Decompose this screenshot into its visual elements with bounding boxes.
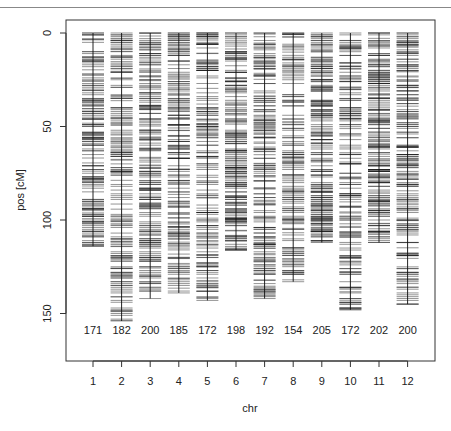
marker-count: 182 — [112, 324, 130, 336]
x-tick-label: 10 — [344, 375, 356, 387]
x-tick-label: 3 — [147, 375, 153, 387]
x-tick-label: 7 — [262, 375, 268, 387]
marker-count: 205 — [313, 324, 331, 336]
x-tick-label: 4 — [176, 375, 182, 387]
marker-count: 171 — [84, 324, 102, 336]
marker-count: 198 — [227, 324, 245, 336]
x-tick-label: 5 — [204, 375, 210, 387]
chromosome-markers — [82, 33, 419, 321]
genetic-map-chart: 050100150 123456789101112 17118220018517… — [0, 0, 451, 431]
marker-count: 200 — [398, 324, 416, 336]
marker-count: 192 — [255, 324, 273, 336]
x-axis-title: chr — [242, 402, 258, 414]
y-tick-label: 50 — [41, 120, 53, 132]
marker-count-labels: 171182200185172198192154205172202200 — [84, 324, 417, 336]
marker-count: 172 — [198, 324, 216, 336]
marker-count: 200 — [141, 324, 159, 336]
x-tick-label: 1 — [90, 375, 96, 387]
x-axis: 123456789101112 — [90, 361, 414, 387]
x-tick-label: 9 — [319, 375, 325, 387]
y-tick-label: 100 — [41, 211, 53, 229]
x-tick-label: 11 — [373, 375, 384, 387]
y-axis: 050100150 — [41, 30, 66, 323]
marker-count: 202 — [370, 324, 388, 336]
marker-count: 154 — [284, 324, 302, 336]
x-tick-label: 2 — [119, 375, 125, 387]
x-tick-label: 6 — [233, 375, 239, 387]
x-tick-label: 12 — [401, 375, 413, 387]
y-tick-label: 150 — [41, 304, 53, 322]
marker-count: 172 — [341, 324, 359, 336]
y-tick-label: 0 — [41, 30, 53, 36]
y-axis-title: pos [cM] — [14, 169, 26, 211]
x-tick-label: 8 — [290, 375, 296, 387]
marker-count: 185 — [170, 324, 188, 336]
